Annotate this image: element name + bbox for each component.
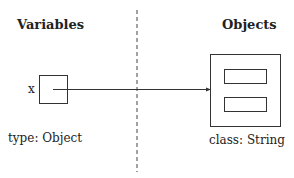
object-class-label: class: String [209, 134, 285, 146]
variable-type-label: type: Object [8, 132, 82, 144]
object-field-1 [225, 70, 267, 84]
variables-heading: Variables [17, 18, 84, 31]
object-box [211, 55, 281, 127]
object-field-2 [225, 98, 267, 112]
variable-name: x [28, 83, 35, 95]
objects-heading: Objects [222, 18, 277, 31]
